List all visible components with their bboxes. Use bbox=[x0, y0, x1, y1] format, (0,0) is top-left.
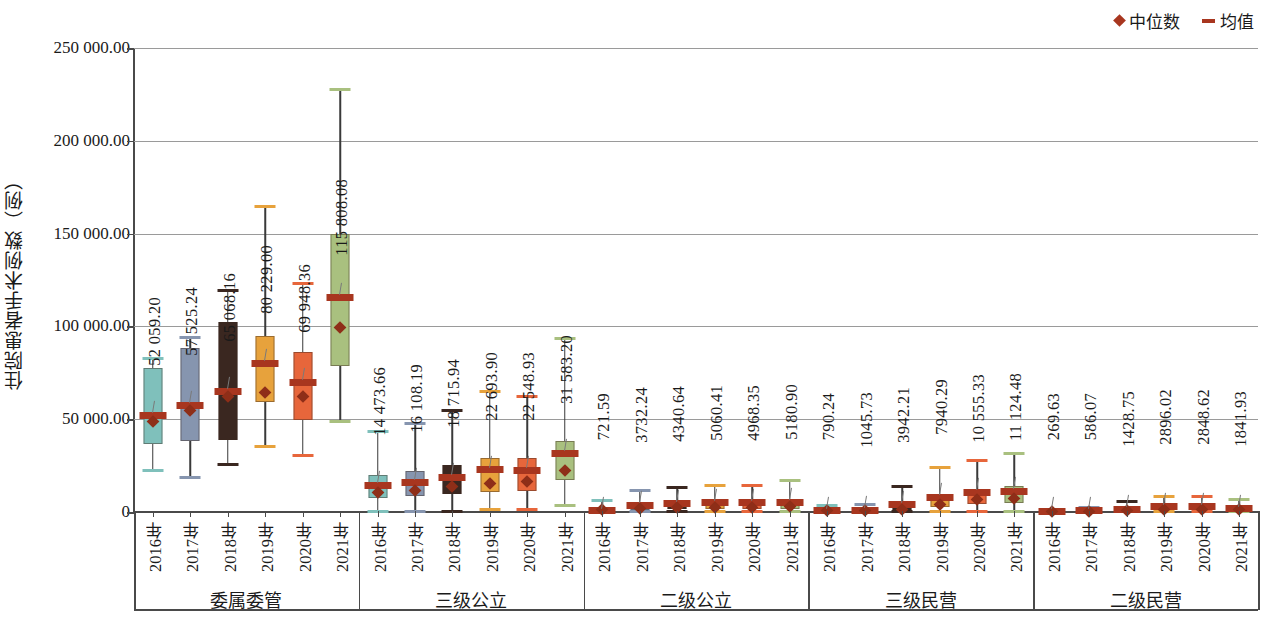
y-tick-label: 50 000.00 bbox=[0, 409, 130, 429]
box-value-label: 18 715.94 bbox=[444, 359, 464, 428]
y-tick-label: 200 000.00 bbox=[0, 131, 130, 151]
x-tick-mark bbox=[940, 511, 941, 517]
x-tick-label: 2021年 bbox=[331, 522, 355, 572]
box-rect bbox=[293, 352, 312, 420]
box-value-label: 115 808.08 bbox=[332, 179, 352, 256]
group-separator bbox=[584, 511, 586, 610]
box-value-label: 3942.21 bbox=[894, 387, 914, 443]
x-tick-mark bbox=[1202, 511, 1203, 517]
y-tick-mark bbox=[127, 419, 134, 421]
x-tick-label: 2021年 bbox=[781, 522, 805, 572]
whisker-cap-upper bbox=[704, 484, 725, 487]
x-tick-label: 2016年 bbox=[369, 522, 393, 572]
whisker-cap-upper bbox=[1004, 452, 1025, 455]
x-tick-mark bbox=[378, 511, 379, 517]
box-value-label: 22 693.90 bbox=[482, 352, 502, 421]
x-tick-label: 2017年 bbox=[631, 522, 655, 572]
x-tick-label: 2016年 bbox=[818, 522, 842, 572]
x-tick-mark bbox=[452, 511, 453, 517]
box-value-label: 5060.41 bbox=[707, 385, 727, 441]
x-tick-mark bbox=[827, 511, 828, 517]
x-tick-mark bbox=[190, 511, 191, 517]
box-value-label: 31 583.20 bbox=[557, 335, 577, 404]
box-value-label: 2896.02 bbox=[1156, 389, 1176, 445]
x-tick-label: 2017年 bbox=[406, 522, 430, 572]
x-tick-mark bbox=[902, 511, 903, 517]
whisker-cap-upper bbox=[255, 205, 276, 208]
group-separator bbox=[1258, 511, 1260, 610]
x-tick-mark bbox=[1164, 511, 1165, 517]
group-separator bbox=[359, 511, 361, 610]
x-tick-mark bbox=[977, 511, 978, 517]
x-tick-mark bbox=[677, 511, 678, 517]
x-tick-label: 2020年 bbox=[968, 522, 992, 572]
y-tick-label: 150 000.00 bbox=[0, 224, 130, 244]
whisker-cap-lower bbox=[554, 504, 575, 507]
x-tick-label: 2018年 bbox=[443, 522, 467, 572]
x-tick-mark bbox=[228, 511, 229, 517]
y-tick-mark bbox=[127, 512, 134, 514]
x-tick-label: 2018年 bbox=[893, 522, 917, 572]
y-tick-label: 0 bbox=[0, 502, 130, 522]
box-value-label: 721.59 bbox=[594, 393, 614, 440]
group-separator bbox=[808, 511, 810, 610]
whisker-cap-upper bbox=[742, 484, 763, 487]
y-tick-label: 100 000.00 bbox=[0, 316, 130, 336]
x-tick-mark bbox=[865, 511, 866, 517]
box-value-label: 10 555.33 bbox=[969, 374, 989, 443]
y-tick-mark bbox=[127, 326, 134, 328]
box-value-label: 1045.73 bbox=[857, 392, 877, 448]
whisker-line bbox=[264, 207, 266, 446]
box-value-label: 4968.35 bbox=[744, 385, 764, 441]
whisker-cap-upper bbox=[967, 459, 988, 462]
x-tick-label: 2020年 bbox=[294, 522, 318, 572]
group-separator bbox=[134, 511, 136, 610]
x-tick-label: 2016年 bbox=[144, 522, 168, 572]
box-value-label: 586.07 bbox=[1081, 393, 1101, 440]
box-value-label: 5180.90 bbox=[782, 384, 802, 440]
x-tick-label: 2018年 bbox=[1118, 522, 1142, 572]
x-tick-mark bbox=[490, 511, 491, 517]
box-value-label: 1428.75 bbox=[1119, 391, 1139, 447]
box-value-label: 3732.24 bbox=[632, 387, 652, 443]
x-tick-label: 2017年 bbox=[181, 522, 205, 572]
whisker-cap-upper bbox=[929, 466, 950, 469]
box-value-label: 16 108.19 bbox=[407, 364, 427, 433]
whisker-cap-upper bbox=[330, 88, 351, 91]
y-tick-mark bbox=[127, 234, 134, 236]
box-value-label: 11 124.48 bbox=[1006, 373, 1026, 441]
group-separator bbox=[1033, 511, 1035, 610]
whisker-cap-upper bbox=[892, 485, 913, 488]
whisker-cap-upper bbox=[779, 479, 800, 482]
box-value-label: 790.24 bbox=[819, 393, 839, 440]
x-tick-label: 2019年 bbox=[256, 522, 280, 572]
x-tick-mark bbox=[340, 511, 341, 517]
x-tick-mark bbox=[153, 511, 154, 517]
x-tick-mark bbox=[790, 511, 791, 517]
box-value-label: 52 059.20 bbox=[145, 297, 165, 366]
x-tick-mark bbox=[1239, 511, 1240, 517]
x-tick-label: 2021年 bbox=[1005, 522, 1029, 572]
x-tick-mark bbox=[565, 511, 566, 517]
x-tick-label: 2018年 bbox=[219, 522, 243, 572]
x-tick-mark bbox=[1014, 511, 1015, 517]
box-value-label: 80 229.00 bbox=[257, 245, 277, 314]
x-tick-label: 2020年 bbox=[743, 522, 767, 572]
x-tick-label: 2019年 bbox=[931, 522, 955, 572]
x-tick-label: 2020年 bbox=[1193, 522, 1217, 572]
y-tick-mark bbox=[127, 48, 134, 50]
x-tick-label: 2019年 bbox=[706, 522, 730, 572]
x-tick-mark bbox=[640, 511, 641, 517]
whisker-cap-lower bbox=[180, 476, 201, 479]
x-tick-mark bbox=[1052, 511, 1053, 517]
y-tick-mark bbox=[127, 141, 134, 143]
x-tick-mark bbox=[602, 511, 603, 517]
x-tick-label: 2021年 bbox=[556, 522, 580, 572]
x-tick-mark bbox=[1089, 511, 1090, 517]
x-tick-mark bbox=[1127, 511, 1128, 517]
box-value-label: 4340.64 bbox=[669, 386, 689, 442]
x-tick-mark bbox=[303, 511, 304, 517]
x-tick-mark bbox=[752, 511, 753, 517]
whisker-cap-lower bbox=[217, 463, 238, 466]
whisker-cap-lower bbox=[142, 469, 163, 472]
